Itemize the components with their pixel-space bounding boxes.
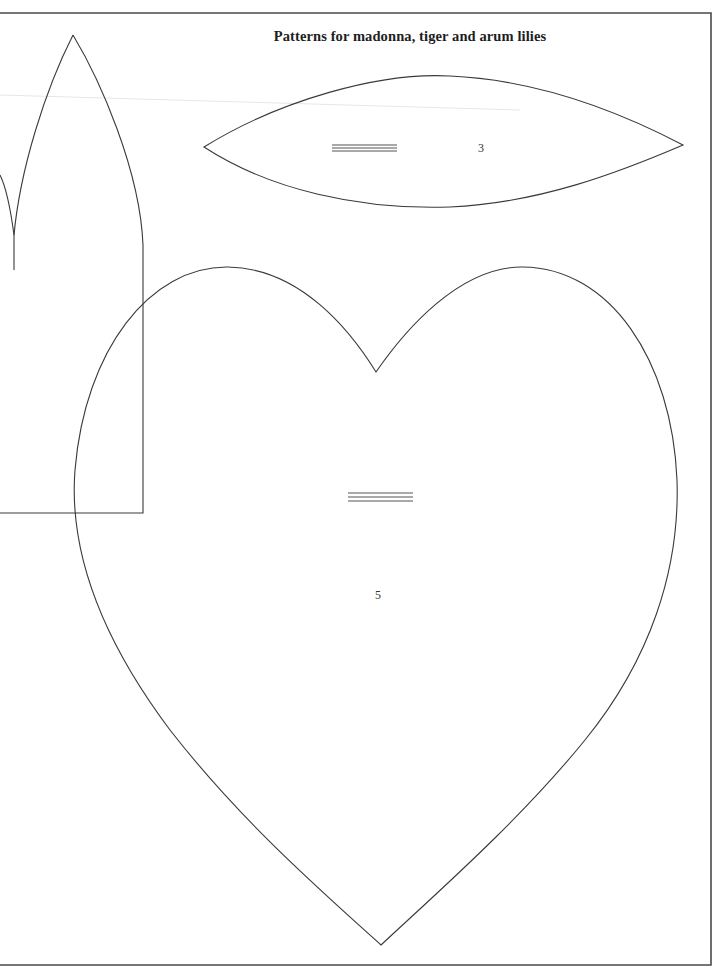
- left-petal-right-edge: [0, 35, 143, 513]
- heart-5-pattern: [74, 267, 677, 945]
- pattern-drawing: [0, 0, 727, 976]
- heart-5-outline: [74, 267, 677, 945]
- left-petal-pattern: [0, 35, 143, 513]
- petal-3-number-label: 3: [478, 141, 484, 156]
- faint-scan-line: [0, 95, 520, 110]
- left-petal-left-edge: [14, 35, 73, 235]
- pattern-sheet: Patterns for madonna, tiger and arum lil…: [0, 0, 727, 976]
- page-border: [0, 13, 711, 965]
- heart-5-number-label: 5: [375, 588, 381, 603]
- page-title: Patterns for madonna, tiger and arum lil…: [0, 28, 727, 45]
- petal-3-outline: [204, 76, 683, 208]
- left-petal-adjacent-curve: [0, 175, 14, 235]
- petal-3-pattern: [204, 76, 683, 208]
- petal-3-grain-line-icon: [332, 145, 397, 151]
- heart-5-grain-line-icon: [348, 493, 413, 501]
